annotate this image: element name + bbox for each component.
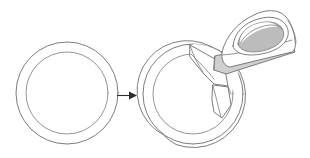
left-ring-group — [16, 42, 118, 144]
left-ring-inner-circle — [26, 52, 108, 134]
diagram-canvas — [0, 0, 310, 158]
figure-root: Ring seam ironing diagram — [0, 0, 310, 158]
